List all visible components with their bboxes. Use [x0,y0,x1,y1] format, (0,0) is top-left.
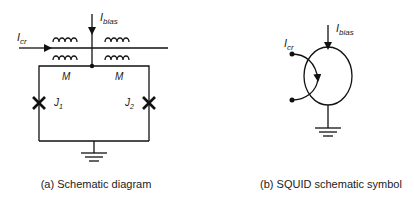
schematic-diagram [19,14,168,161]
caption-a: (a) Schematic diagram [41,178,152,190]
mutual-inductance-right: M [115,71,124,82]
caption-b: (b) SQUID schematic symbol [260,178,402,190]
input-terminal-top [290,52,295,57]
input-current-label-b: Icr [284,37,294,52]
mutual-inductance-left: M [62,71,71,82]
loop-coil-left [53,56,77,60]
input-coil-right [105,38,129,42]
squid-circle [304,47,352,105]
input-coil-left [53,38,77,42]
squid-figure: Icr Ibias M M J1 J2 (a) Schematic diagra… [0,0,414,201]
junction-1-label: J1 [53,97,63,110]
ground-icon [81,141,107,161]
bias-current-label-b: Ibias [336,22,354,37]
input-terminal-bottom [290,98,295,103]
bias-current-label: Ibias [100,11,118,26]
junction-2-label: J2 [124,97,134,110]
loop-coil-right [105,56,129,60]
squid-symbol [290,25,353,136]
input-current-label: Icr [17,31,27,46]
ground-icon-b [315,105,341,136]
